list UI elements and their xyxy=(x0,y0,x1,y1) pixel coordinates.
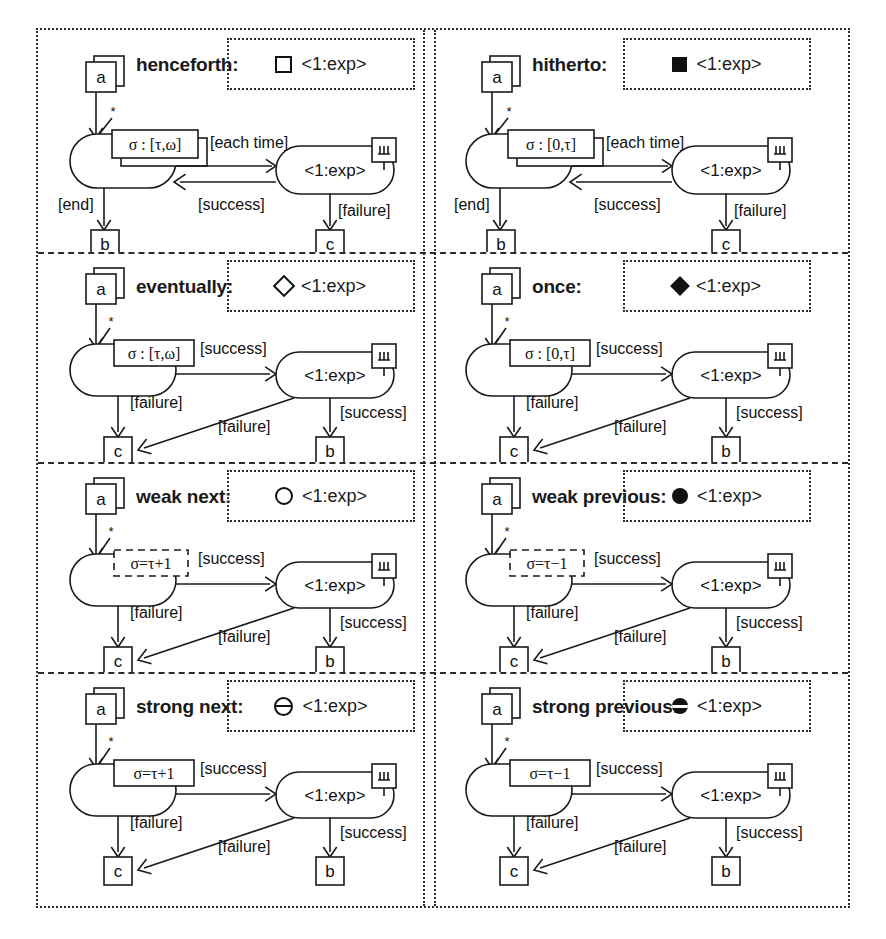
node-source-a: a xyxy=(86,478,124,514)
multiplicity-star: * xyxy=(506,104,511,119)
svg-text:c: c xyxy=(114,862,123,881)
statechart-strong-previous: a*σ=τ−1<1:exp>[success][failure]c[failur… xyxy=(434,672,819,910)
label-forward-success: [success] xyxy=(596,760,663,777)
label-diagonal-failure: [failure] xyxy=(614,838,666,855)
panel-hitherto: hitherto:<1:exp>a*σ : [0,τ]<1:exp>[each … xyxy=(434,30,819,252)
svg-text:b: b xyxy=(325,652,334,671)
node-failure-c: c xyxy=(104,437,132,462)
node-failure-c: c xyxy=(712,230,740,252)
statechart-hitherto: a*σ : [0,τ]<1:exp>[each time][success][e… xyxy=(434,30,819,252)
svg-text:a: a xyxy=(492,490,502,509)
svg-text:b: b xyxy=(721,652,730,671)
panel-henceforth: henceforth:<1:exp>a*σ : [τ,ω]<1:exp>[eac… xyxy=(38,30,423,252)
svg-text:<1:exp>: <1:exp> xyxy=(700,576,762,595)
svg-text:b: b xyxy=(325,862,334,881)
label-right-success: [success] xyxy=(736,824,803,841)
label-each-time: [each time] xyxy=(210,134,288,151)
label-diagonal-failure: [failure] xyxy=(614,418,666,435)
svg-text:b: b xyxy=(100,235,109,252)
svg-text:σ=τ+1: σ=τ+1 xyxy=(133,765,174,782)
svg-text:σ=τ−1: σ=τ−1 xyxy=(529,765,570,782)
svg-text:a: a xyxy=(492,700,502,719)
label-diagonal-failure: [failure] xyxy=(218,628,270,645)
svg-text:<1:exp>: <1:exp> xyxy=(304,576,366,595)
rake-marker-icon xyxy=(372,344,396,368)
multiplicity-star: * xyxy=(504,734,509,749)
panel-weak-next: weak next:<1:exp>a*σ=τ+1<1:exp>[success]… xyxy=(38,462,423,672)
rake-marker-icon xyxy=(768,138,792,162)
node-success-b: b xyxy=(712,857,740,885)
label-end: [end] xyxy=(58,196,94,213)
node-source-a: a xyxy=(482,478,520,514)
figure-container: henceforth:<1:exp>a*σ : [τ,ω]<1:exp>[eac… xyxy=(36,28,850,908)
label-right-success: [success] xyxy=(736,404,803,421)
guard-box: σ=τ+1 xyxy=(114,550,188,576)
label-forward-success: [success] xyxy=(200,340,267,357)
label-forward-success: [success] xyxy=(200,760,267,777)
statechart-weak-next: a*σ=τ+1<1:exp>[success][failure]c[failur… xyxy=(38,462,423,672)
panel-eventually: eventually:<1:exp>a*σ : [τ,ω]<1:exp>[suc… xyxy=(38,252,423,462)
svg-text:c: c xyxy=(510,862,519,881)
svg-text:a: a xyxy=(96,700,106,719)
node-failure-c: c xyxy=(104,647,132,672)
label-forward-success: [success] xyxy=(596,340,663,357)
guard-box: σ=τ+1 xyxy=(114,760,194,786)
svg-text:c: c xyxy=(114,442,123,461)
rake-marker-icon xyxy=(768,764,792,788)
guard-box: σ=τ−1 xyxy=(510,550,584,576)
svg-text:c: c xyxy=(722,235,731,252)
label-each-time: [each time] xyxy=(606,134,684,151)
svg-text:b: b xyxy=(721,862,730,881)
svg-text:a: a xyxy=(492,68,502,87)
multiplicity-star: * xyxy=(108,734,113,749)
label-diagonal-failure: [failure] xyxy=(218,418,270,435)
svg-text:c: c xyxy=(326,235,335,252)
svg-text:σ=τ+1: σ=τ+1 xyxy=(130,555,171,572)
label-failure: [failure] xyxy=(734,202,786,219)
node-end-b: b xyxy=(91,230,119,252)
node-failure-c: c xyxy=(500,857,528,885)
label-forward-success: [success] xyxy=(594,550,661,567)
node-source-a: a xyxy=(482,268,520,304)
svg-text:<1:exp>: <1:exp> xyxy=(304,366,366,385)
node-source-a: a xyxy=(86,56,124,92)
svg-text:a: a xyxy=(96,280,106,299)
panel-once: once:<1:exp>a*σ : [0,τ]<1:exp>[success][… xyxy=(434,252,819,462)
multiplicity-star: * xyxy=(110,104,115,119)
svg-text:<1:exp>: <1:exp> xyxy=(304,786,366,805)
svg-text:c: c xyxy=(510,442,519,461)
label-forward-success: [success] xyxy=(198,550,265,567)
guard-box: σ : [0,τ] xyxy=(510,340,590,366)
svg-text:<1:exp>: <1:exp> xyxy=(700,366,762,385)
rake-marker-icon xyxy=(372,764,396,788)
panel-strong-previous: strong previous:<1:exp>a*σ=τ−1<1:exp>[su… xyxy=(434,672,819,910)
statechart-weak-previous: a*σ=τ−1<1:exp>[success][failure]c[failur… xyxy=(434,462,819,672)
label-right-success: [success] xyxy=(340,404,407,421)
multiplicity-star: * xyxy=(108,314,113,329)
svg-text:b: b xyxy=(721,442,730,461)
rake-marker-icon xyxy=(768,554,792,578)
label-left-failure: [failure] xyxy=(130,394,182,411)
label-failure: [failure] xyxy=(338,202,390,219)
label-right-success: [success] xyxy=(736,614,803,631)
label-diagonal-failure: [failure] xyxy=(614,628,666,645)
svg-text:c: c xyxy=(510,652,519,671)
svg-text:<1:exp>: <1:exp> xyxy=(700,786,762,805)
rake-marker-icon xyxy=(768,344,792,368)
multiplicity-star: * xyxy=(504,314,509,329)
node-source-a: a xyxy=(482,688,520,724)
svg-text:<1:exp>: <1:exp> xyxy=(304,161,366,180)
node-failure-c: c xyxy=(316,230,344,252)
label-success: [success] xyxy=(198,196,265,213)
svg-text:σ=τ−1: σ=τ−1 xyxy=(526,555,567,572)
svg-text:a: a xyxy=(96,68,106,87)
guard-box: σ : [0,τ] xyxy=(508,130,603,166)
node-success-b: b xyxy=(316,647,344,672)
svg-text:b: b xyxy=(496,235,505,252)
node-failure-c: c xyxy=(500,647,528,672)
node-success-b: b xyxy=(712,437,740,462)
multiplicity-star: * xyxy=(504,524,509,539)
statechart-strong-next: a*σ=τ+1<1:exp>[success][failure]c[failur… xyxy=(38,672,423,910)
panel-weak-previous: weak previous:<1:exp>a*σ=τ−1<1:exp>[succ… xyxy=(434,462,819,672)
node-source-a: a xyxy=(86,268,124,304)
